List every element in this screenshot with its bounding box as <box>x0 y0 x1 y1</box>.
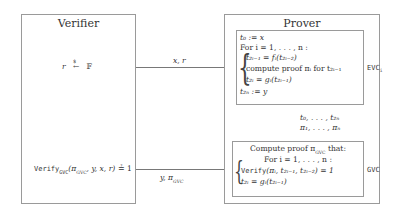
evc-line-3: compute proof πᵢ for t₂ᵢ₋₁ <box>246 64 342 74</box>
gvc-compute-that: that: <box>325 144 346 153</box>
verifier-title: Verifier <box>22 17 135 30</box>
evc-label: EVCi <box>367 63 382 76</box>
gvc-compute-sub: GVC <box>315 150 325 155</box>
evc-label-text: EVC <box>367 64 380 72</box>
verify-args-rest: , y, x, r) <box>87 164 116 173</box>
arrow-label-x-r: x, r <box>173 56 186 66</box>
evc-line-0: t₀ := x <box>240 33 264 43</box>
gvc-verify-fn: Verify <box>241 167 266 175</box>
verify-fn: Verify <box>34 165 59 173</box>
evc-line-4: t₂ᵢ = gᵢ(t₂ᵢ₋₁) <box>246 75 292 85</box>
gvc-line-verify: Verify(πᵢ, t₂ᵢ₋₁, t₂ᵢ₋₂) = 1 <box>241 166 334 176</box>
verify-check: VerifyGVC(πGVC, y, x, r) ≟ 1 <box>34 164 132 178</box>
sample-var: r <box>62 62 66 71</box>
gvc-label: GVC <box>367 165 380 175</box>
evc-box: t₀ := x For i = 1, . . . , n : { t₂ᵢ₋₁ =… <box>236 30 364 105</box>
gvc-line-g: t₂ᵢ = gᵢ(t₂ᵢ₋₁) <box>241 177 287 187</box>
verify-fn-sub: GVC <box>59 169 68 175</box>
evc-label-sub: i <box>380 68 383 73</box>
arrow-label-pi-values: π₁, . . . , πₙ <box>300 123 340 133</box>
sample-field: 𝔽 <box>86 62 91 71</box>
arrow-label-y-pi-text: y, π <box>160 173 173 182</box>
sample-arrow: $← <box>68 62 84 72</box>
gvc-verify-args: (πᵢ, t₂ᵢ₋₁, t₂ᵢ₋₂) = 1 <box>266 166 333 175</box>
gvc-compute-text: Compute proof π <box>250 144 315 153</box>
prover-title: Prover <box>225 17 379 30</box>
sample-expression: r $← 𝔽 <box>62 62 92 72</box>
gvc-box: Compute proof πGVC that: For i = 1, . . … <box>232 141 364 197</box>
arrow-label-y-pi: y, πGVC <box>160 173 183 187</box>
verify-args-sub: GVC <box>76 170 86 175</box>
evc-line-5: t₂ₙ := y <box>240 87 267 97</box>
sample-dollar: $ <box>73 56 76 66</box>
arrow-label-t-values: t₀, . . . , t₂ₙ <box>300 113 339 123</box>
arrow-label-y-pi-sub: GVC <box>173 179 183 184</box>
evc-line-2: t₂ᵢ₋₁ = fᵢ(t₂ᵢ₋₂) <box>246 53 297 63</box>
verify-eq: ≟ 1 <box>118 164 132 173</box>
gvc-line-for: For i = 1, . . . , n : <box>233 155 363 165</box>
